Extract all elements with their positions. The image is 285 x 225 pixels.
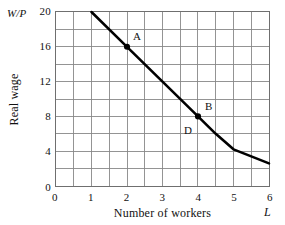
x-tick-label-4: 4 — [186, 192, 210, 203]
labor-demand-chart: W/P Real wage 20 16 12 8 4 0 — [0, 0, 285, 225]
x-tick-label-6: 6 — [258, 192, 282, 203]
x-tick-label-5: 5 — [222, 192, 246, 203]
labor-demand-curve — [56, 12, 269, 186]
point-label-a: A — [133, 31, 141, 42]
x-tick-label-1: 1 — [79, 192, 103, 203]
x-axis-symbol: L — [264, 205, 271, 220]
data-point-b — [195, 113, 201, 119]
plot-area — [55, 11, 270, 187]
data-point-a — [124, 44, 130, 50]
y-tick-label-8: 8 — [11, 111, 51, 122]
y-tick-label-4: 4 — [11, 146, 51, 157]
x-tick-label-2: 2 — [115, 192, 139, 203]
x-axis-title: Number of workers — [55, 206, 270, 221]
y-tick-label-12: 12 — [11, 76, 51, 87]
y-tick-label-16: 16 — [11, 41, 51, 52]
x-tick-label-0: 0 — [43, 192, 67, 203]
y-tick-label-20: 20 — [11, 6, 51, 17]
point-label-d: D — [184, 125, 192, 136]
x-tick-label-3: 3 — [151, 192, 175, 203]
point-label-b: B — [205, 101, 213, 112]
